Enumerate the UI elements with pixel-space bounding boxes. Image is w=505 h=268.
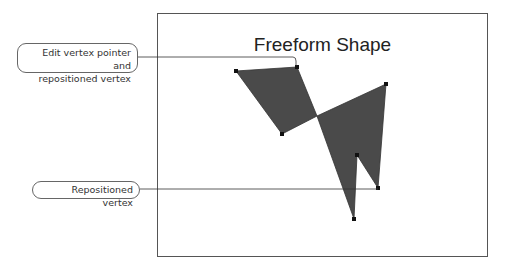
callout-repositioned-vertex: Repositioned vertex bbox=[32, 181, 140, 199]
callout-text: repositioned vertex bbox=[24, 72, 131, 85]
freeform-diagram bbox=[0, 0, 505, 268]
callout-edit-vertex: Edit vertex pointer and repositioned ver… bbox=[17, 43, 138, 73]
freeform-shape[interactable] bbox=[236, 67, 386, 219]
callout-text: Edit vertex pointer and bbox=[24, 46, 131, 72]
callout-text: Repositioned vertex bbox=[39, 183, 133, 209]
leader-line-1 bbox=[137, 57, 296, 66]
